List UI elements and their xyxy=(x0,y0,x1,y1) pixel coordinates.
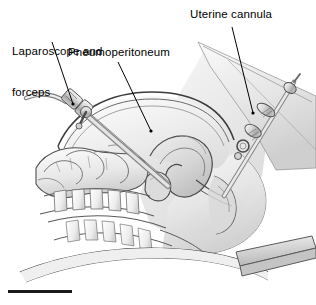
operating-table xyxy=(236,236,316,276)
vertebra-row-lower xyxy=(66,220,152,250)
back-shade xyxy=(20,248,268,282)
vertebra xyxy=(84,220,98,240)
vertebra xyxy=(66,220,80,242)
leader-dot-pneumoperitoneum xyxy=(149,129,152,132)
cannula-pivot xyxy=(235,153,242,160)
scale-bar xyxy=(8,290,72,293)
vertebra xyxy=(54,190,67,212)
vertebra xyxy=(126,192,139,214)
vertebra xyxy=(108,190,121,211)
vertebra xyxy=(72,189,85,210)
laparoscopy-figure: Laparoscope and forceps Pneumoperitoneum… xyxy=(0,0,316,305)
vertebra xyxy=(120,224,134,246)
label-laparoscope-and-forceps: Laparoscope and forceps xyxy=(12,18,102,126)
label-laparoscope-line2: forceps xyxy=(12,86,102,100)
leader-dot-uterine-cannula xyxy=(251,111,254,114)
back-contour xyxy=(20,248,268,282)
label-uterine-cannula: Uterine cannula xyxy=(190,8,272,22)
label-pneumoperitoneum: Pneumoperitoneum xyxy=(68,46,170,60)
cannula-ring-inner xyxy=(240,143,246,149)
cannula-tip xyxy=(294,74,300,82)
vertebra xyxy=(102,221,116,242)
vertebra xyxy=(138,228,152,250)
vertebra xyxy=(90,189,103,209)
